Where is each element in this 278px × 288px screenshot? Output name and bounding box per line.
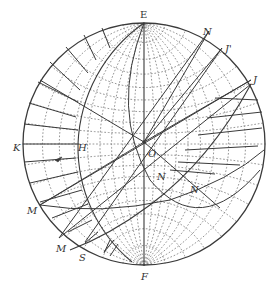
construction-lines (23, 23, 264, 265)
label-N-right: N (190, 185, 199, 195)
label-M-lower: M (56, 244, 66, 254)
label-E: E (140, 10, 147, 20)
label-J-prime: J' (225, 44, 232, 54)
label-O: O (148, 149, 156, 159)
label-N-top: N (203, 27, 212, 37)
label-J: J (253, 75, 257, 85)
stereonet-diagram: E N J' J K H O N N M M S F (0, 0, 278, 288)
label-M-upper: M (27, 206, 37, 216)
label-F: F (141, 272, 148, 282)
label-N-center: N (157, 172, 166, 182)
label-K: K (13, 143, 20, 153)
stereonet-plot (0, 0, 278, 288)
label-S: S (79, 253, 86, 263)
label-H: H (78, 143, 87, 153)
